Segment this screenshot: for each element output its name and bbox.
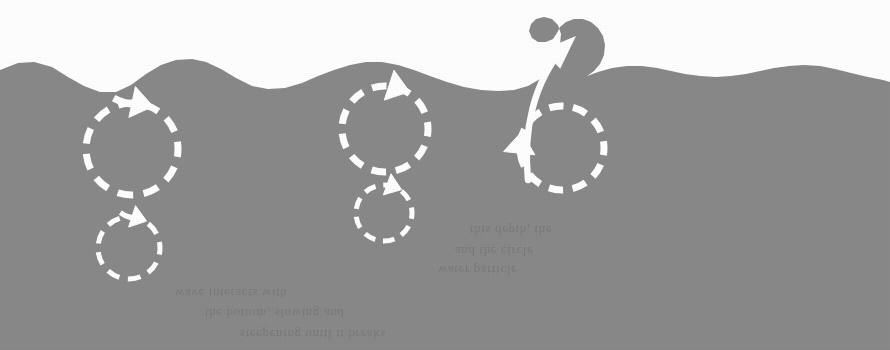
- water-body: [0, 17, 890, 350]
- figure-canvas: Wave orbital motion and breaking wave ov…: [0, 0, 890, 350]
- wave-diagram-svg: Wave orbital motion and breaking wave ov…: [0, 0, 890, 350]
- wave-orbital-motion-figure: Wave orbital motion and breaking wave ov…: [0, 0, 890, 350]
